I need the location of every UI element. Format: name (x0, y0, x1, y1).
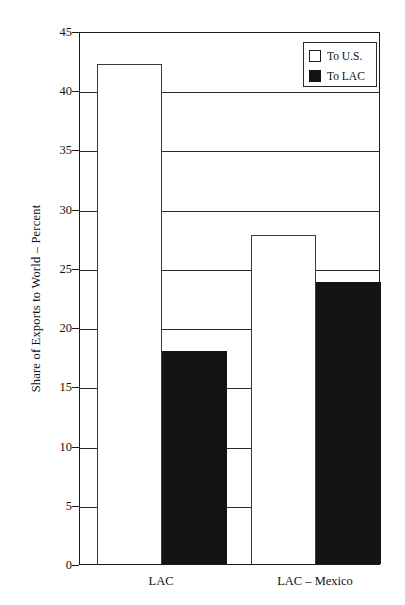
x-axis-label-0: LAC (81, 574, 241, 589)
bar-LACMexico-ToUS (251, 235, 316, 564)
y-tick-10 (72, 447, 79, 448)
bar-LAC-ToLAC (162, 351, 227, 564)
legend-label-0: To U.S. (327, 50, 362, 62)
y-tick-45 (72, 32, 79, 33)
y-tick-label-25: 25 (12, 263, 72, 275)
clipped-title-remnant (0, 0, 405, 8)
chart-legend: To U.S.To LAC (303, 42, 377, 87)
bar-LAC-ToUS (97, 64, 162, 564)
y-tick-label-15: 15 (12, 381, 72, 393)
y-tick-5 (72, 506, 79, 507)
legend-item-1: To LAC (309, 67, 376, 85)
y-tick-label-10: 10 (12, 441, 72, 453)
y-tick-35 (72, 150, 79, 151)
filled-square-icon (309, 70, 321, 82)
bar-chart-figure: Share of Exports to World – Percent 0510… (0, 0, 405, 605)
y-tick-label-0: 0 (12, 559, 72, 571)
plot-area (79, 32, 380, 565)
y-tick-label-20: 20 (12, 322, 72, 334)
open-square-icon (309, 50, 321, 62)
legend-item-0: To U.S. (309, 47, 376, 65)
legend-label-1: To LAC (327, 70, 365, 82)
y-tick-label-40: 40 (12, 85, 72, 97)
y-tick-label-35: 35 (12, 144, 72, 156)
y-tick-40 (72, 91, 79, 92)
y-tick-label-5: 5 (12, 500, 72, 512)
y-tick-label-30: 30 (12, 204, 72, 216)
bar-LACMexico-ToLAC (316, 282, 381, 564)
y-tick-25 (72, 269, 79, 270)
y-tick-30 (72, 210, 79, 211)
y-axis-title: Share of Exports to World – Percent (26, 32, 46, 565)
x-axis-label-1: LAC – Mexico (235, 574, 395, 589)
y-tick-label-45: 45 (12, 26, 72, 38)
y-tick-0 (72, 565, 79, 566)
y-tick-20 (72, 328, 79, 329)
y-tick-15 (72, 387, 79, 388)
